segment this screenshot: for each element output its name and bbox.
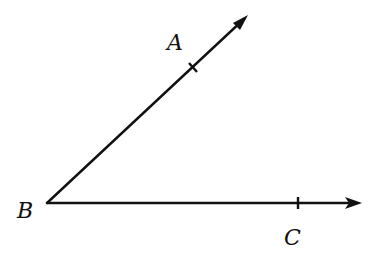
label-b: B: [16, 198, 33, 223]
angle-diagram: A B C: [0, 0, 378, 254]
ray-ba: [47, 19, 244, 203]
label-a: A: [165, 30, 183, 55]
label-c: C: [284, 225, 301, 250]
